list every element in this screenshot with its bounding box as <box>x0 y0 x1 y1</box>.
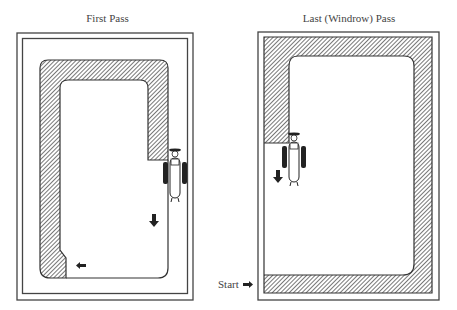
start-arrow-right-icon <box>243 281 253 288</box>
direction-arrow-down-icon <box>273 170 283 183</box>
field-diagram <box>0 0 457 310</box>
last-pass-panel <box>243 32 439 300</box>
start-label: Start <box>218 278 239 290</box>
direction-arrow-down-icon <box>149 214 159 227</box>
direction-arrow-left-icon <box>76 262 86 269</box>
cut-swath <box>40 60 168 278</box>
first-pass-panel <box>17 33 193 300</box>
